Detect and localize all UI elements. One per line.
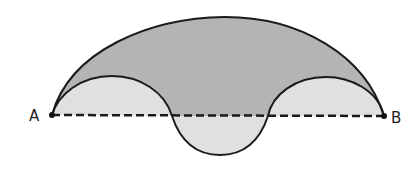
- point-a-label: A: [29, 107, 40, 125]
- geometry-figure: A B: [0, 0, 420, 171]
- diagram-canvas: A B: [0, 0, 420, 171]
- point-b-label: B: [391, 109, 401, 127]
- bottom-lobe: [172, 116, 268, 155]
- point-a-dot: [49, 112, 55, 118]
- point-b-dot: [381, 113, 387, 119]
